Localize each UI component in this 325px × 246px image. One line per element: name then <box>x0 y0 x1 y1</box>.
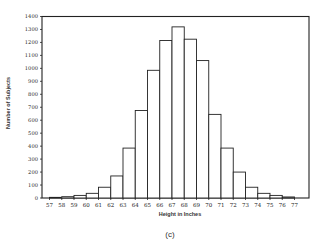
y-tick-label: 500 <box>28 130 38 136</box>
y-tick-label: 400 <box>28 143 38 149</box>
y-tick-label: 0 <box>35 195 38 201</box>
x-tick-label: 67 <box>169 202 176 208</box>
y-tick-label: 700 <box>28 104 38 110</box>
x-tick-label: 61 <box>95 202 102 208</box>
histogram-bar <box>135 110 147 198</box>
x-tick-label: 69 <box>193 202 200 208</box>
y-tick-label: 1200 <box>25 39 38 45</box>
histogram-bar <box>258 193 270 198</box>
histogram-bar <box>270 195 282 198</box>
x-tick-label: 63 <box>120 202 127 208</box>
histogram-bar <box>172 27 184 198</box>
x-tick-label: 64 <box>132 202 139 208</box>
x-tick-label: 77 <box>291 202 298 208</box>
x-tick-label: 68 <box>181 202 188 208</box>
histogram-bar <box>160 40 172 198</box>
y-tick-label: 1400 <box>25 13 38 19</box>
x-tick-label: 66 <box>156 202 163 208</box>
histogram-bar <box>184 39 196 198</box>
x-tick-label: 73 <box>242 202 249 208</box>
figure-caption: (c) <box>160 230 180 239</box>
x-tick-label: 59 <box>71 202 78 208</box>
y-tick-label: 300 <box>28 156 38 162</box>
histogram-bar <box>74 195 86 198</box>
histogram-bar <box>99 187 111 198</box>
histogram-bar <box>197 61 209 198</box>
histogram-bar <box>246 187 258 198</box>
y-tick-label: 1100 <box>25 52 38 58</box>
x-tick-label: 58 <box>58 202 65 208</box>
x-tick-label: 75 <box>267 202 274 208</box>
histogram-chart: 0100200300400500600700800900100011001200… <box>0 0 325 246</box>
y-tick-label: 600 <box>28 117 38 123</box>
x-tick-label: 65 <box>144 202 151 208</box>
histogram-bar <box>209 114 221 198</box>
histogram-bar <box>148 70 160 198</box>
x-axis-title: Height in Inches <box>140 211 220 217</box>
y-tick-label: 1300 <box>25 26 38 32</box>
histogram-bar <box>62 197 74 198</box>
y-tick-label: 100 <box>28 182 38 188</box>
x-tick-label: 62 <box>107 202 114 208</box>
y-tick-label: 900 <box>28 78 38 84</box>
y-tick-label: 1000 <box>25 65 38 71</box>
y-axis-title: Number of Subjects <box>5 63 11 143</box>
x-tick-label: 74 <box>254 202 261 208</box>
x-tick-label: 76 <box>279 202 286 208</box>
histogram-bar <box>50 197 62 198</box>
histogram-bar <box>221 148 233 198</box>
histogram-bar <box>123 148 135 198</box>
histogram-bars <box>50 27 295 198</box>
x-tick-label: 72 <box>230 202 237 208</box>
histogram-bar <box>111 176 123 198</box>
x-axis-ticks: 5758596061626364656667686970717273747576… <box>46 198 298 208</box>
x-tick-label: 70 <box>205 202 212 208</box>
y-tick-label: 800 <box>28 91 38 97</box>
x-tick-label: 60 <box>83 202 90 208</box>
x-tick-label: 57 <box>46 202 53 208</box>
y-tick-label: 200 <box>28 169 38 175</box>
y-axis-ticks: 0100200300400500600700800900100011001200… <box>25 13 42 201</box>
histogram-bar <box>233 172 245 198</box>
x-tick-label: 71 <box>218 202 225 208</box>
histogram-bar <box>282 197 294 198</box>
histogram-bar <box>86 193 98 198</box>
